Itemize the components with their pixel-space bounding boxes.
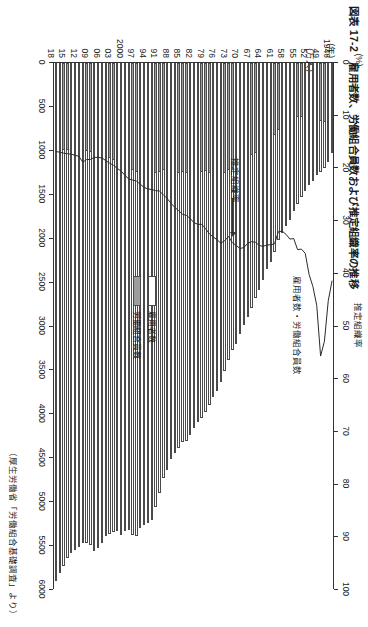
bar-union-members <box>247 63 249 159</box>
count-tick-label: 3000 <box>37 316 47 335</box>
bar-row <box>189 63 191 589</box>
bar-row <box>250 63 252 589</box>
bar-row <box>312 63 314 589</box>
bar-union-members <box>189 63 191 173</box>
bar-union-members <box>254 63 256 153</box>
bar-row <box>319 63 321 589</box>
bar-union-members <box>74 63 76 150</box>
year-tick-label: 06 <box>92 28 102 58</box>
bar-row <box>285 63 287 589</box>
bar-union-members <box>131 63 133 170</box>
bar-row <box>212 63 214 589</box>
bar-row <box>296 63 298 589</box>
bar-union-members <box>293 63 295 119</box>
bar-union-members <box>177 63 179 173</box>
bar-union-members <box>208 63 210 173</box>
count-tick-label: 4500 <box>37 448 47 467</box>
percent-tick <box>334 536 338 537</box>
bar-union-members <box>108 63 110 158</box>
legend-item-employees: 雇用者数 <box>147 276 158 368</box>
rate-annotation-arrowhead <box>230 232 236 237</box>
count-tick-label: 1000 <box>37 140 47 159</box>
bar-union-members <box>78 63 80 150</box>
figure-title: 図表 17-2 雇用者数、労働組合員数および推定組織率の推移 <box>347 6 362 289</box>
bar-row <box>105 63 107 589</box>
bar-row <box>300 63 302 589</box>
percent-tick <box>334 431 338 432</box>
bar-union-members <box>158 63 160 172</box>
bar-row <box>197 63 199 589</box>
bar-union-members <box>101 63 103 152</box>
bar-union-members <box>139 63 141 173</box>
bar-union-members <box>162 63 164 170</box>
percent-tick <box>334 378 338 379</box>
bar-union-members <box>201 63 203 172</box>
percent-axis-unit: (%) <box>354 53 364 66</box>
bar-row <box>93 63 95 589</box>
bar-union-members <box>235 63 237 167</box>
percent-tick <box>334 273 338 274</box>
chart-figure: 図表 17-2 雇用者数、労働組合員数および推定組織率の推移 (%) (万人) … <box>0 0 368 627</box>
year-tick-label: 73 <box>219 28 229 58</box>
percent-tick-label: 60 <box>341 373 351 382</box>
bar-union-members <box>285 63 287 124</box>
year-tick-label: 58 <box>276 28 286 58</box>
year-axis-unit: (年) <box>326 28 338 58</box>
count-tick <box>49 326 53 327</box>
bar-row <box>70 63 72 589</box>
count-tick <box>49 106 53 107</box>
bar-row <box>323 63 325 589</box>
legend-label-employees: 雇用者数 <box>147 311 158 343</box>
bar-row <box>289 63 291 589</box>
bar-row <box>220 63 222 589</box>
bar-row <box>193 63 195 589</box>
bar-row <box>177 63 179 589</box>
percent-tick <box>334 167 338 168</box>
count-tick-label: 4000 <box>37 404 47 423</box>
count-tick-label: 0 <box>37 60 47 65</box>
bar-row <box>116 63 118 589</box>
bar-union-members <box>120 63 122 164</box>
year-tick-label: 64 <box>253 28 263 58</box>
bar-union-members <box>273 63 275 135</box>
bar-row <box>112 63 114 589</box>
count-tick <box>49 194 53 195</box>
bar-union-members <box>296 63 298 117</box>
bar-row <box>85 63 87 589</box>
bar-union-members <box>243 63 245 160</box>
bar-union-members <box>147 63 149 172</box>
bar-row <box>216 63 218 589</box>
bar-row <box>78 63 80 589</box>
count-tick-label: 1500 <box>37 184 47 203</box>
bar-row <box>124 63 126 589</box>
year-tick-label: 2000 <box>115 28 125 58</box>
bar-union-members <box>331 63 333 95</box>
bar-union-members <box>112 63 114 160</box>
bar-row <box>308 63 310 589</box>
bar-row <box>258 63 260 589</box>
bar-row <box>224 63 226 589</box>
bar-row <box>62 63 64 589</box>
rotated-figure-wrapper: 図表 17-2 雇用者数、労働組合員数および推定組織率の推移 (%) (万人) … <box>0 0 368 627</box>
bar-row <box>66 63 68 589</box>
figure-page: 図表 17-2 雇用者数、労働組合員数および推定組織率の推移 (%) (万人) … <box>0 0 368 627</box>
bar-union-members <box>319 63 321 121</box>
bar-row <box>239 63 241 589</box>
bar-union-members <box>300 63 302 117</box>
year-tick-label: 97 <box>126 28 136 58</box>
count-tick <box>49 150 53 151</box>
bar-union-members <box>308 63 310 114</box>
bar-union-members <box>327 63 329 112</box>
bar-row <box>227 63 229 589</box>
year-tick-label: 82 <box>184 28 194 58</box>
year-tick-label: 18 <box>46 28 56 58</box>
bar-union-members <box>270 63 272 140</box>
bar-union-members <box>212 63 214 173</box>
percent-tick-label: 100 <box>341 582 351 596</box>
bar-row <box>158 63 160 589</box>
bar-union-members <box>316 63 318 114</box>
percent-tick <box>334 484 338 485</box>
bar-row <box>101 63 103 589</box>
bar-union-members <box>185 63 187 173</box>
bar-row <box>327 63 329 589</box>
